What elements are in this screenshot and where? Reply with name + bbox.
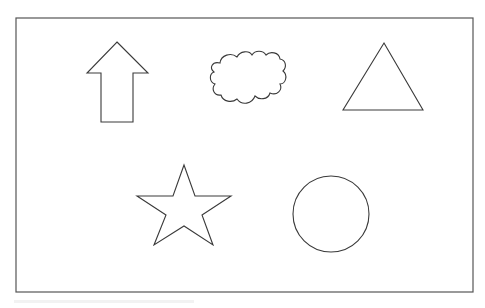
- bottom-edge-artifact: [14, 300, 194, 303]
- shapes-canvas: [0, 0, 485, 308]
- frame-border: [16, 18, 473, 292]
